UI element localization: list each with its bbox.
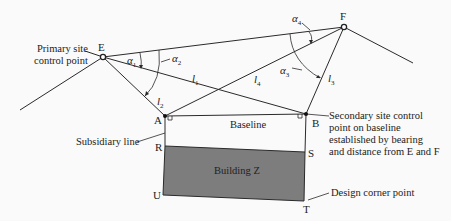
distance-label-l2: l2 — [157, 95, 164, 112]
point-label-b: B — [312, 117, 319, 129]
leader-secondary — [306, 114, 329, 116]
line-f-right — [344, 27, 413, 63]
arrow-alpha2 — [145, 91, 149, 96]
station-f-marker — [341, 24, 346, 29]
point-label-f: F — [340, 10, 346, 22]
point-a-marker — [163, 114, 167, 118]
point-label-s: S — [308, 147, 314, 159]
angle-label-alpha2: α2 — [172, 52, 181, 69]
leader-alpha4 — [302, 23, 310, 30]
leader-design-corner — [308, 193, 329, 200]
subsidiary-line-label: Subsidiary line — [76, 136, 139, 148]
point-label-u: U — [153, 189, 161, 201]
primary-control-point-label: Primary site control point — [34, 43, 88, 67]
point-label-r: R — [155, 141, 162, 153]
building-z-label: Building Z — [214, 165, 260, 177]
leader-alpha2 — [161, 59, 170, 62]
point-label-a: A — [154, 114, 162, 126]
angle-label-alpha4: α4 — [292, 12, 301, 29]
right-angle-a — [168, 116, 172, 120]
distance-label-l1: l1 — [192, 72, 199, 89]
design-corner-point-label: Design corner point — [331, 187, 414, 199]
secondary-control-point-label: Secondary site control point on baseline… — [329, 110, 440, 158]
baseline-line — [165, 114, 306, 116]
angle-label-alpha1: α1 — [127, 54, 136, 71]
arc-alpha3 — [290, 34, 320, 78]
baseline-label: Baseline — [230, 119, 266, 131]
arrow-alpha4 — [309, 40, 313, 44]
distance-label-l3: l3 — [328, 72, 335, 89]
distance-label-l4: l4 — [254, 73, 261, 90]
point-b-marker — [304, 112, 308, 116]
subsidiary-line-b — [305, 114, 306, 152]
station-e-marker — [100, 54, 105, 59]
point-label-t: T — [303, 203, 310, 215]
line-ef — [103, 27, 344, 57]
leader-alpha3 — [292, 68, 302, 70]
angle-label-alpha3: α3 — [280, 64, 289, 81]
arc-alpha2 — [145, 50, 159, 96]
point-label-e: E — [98, 41, 105, 53]
